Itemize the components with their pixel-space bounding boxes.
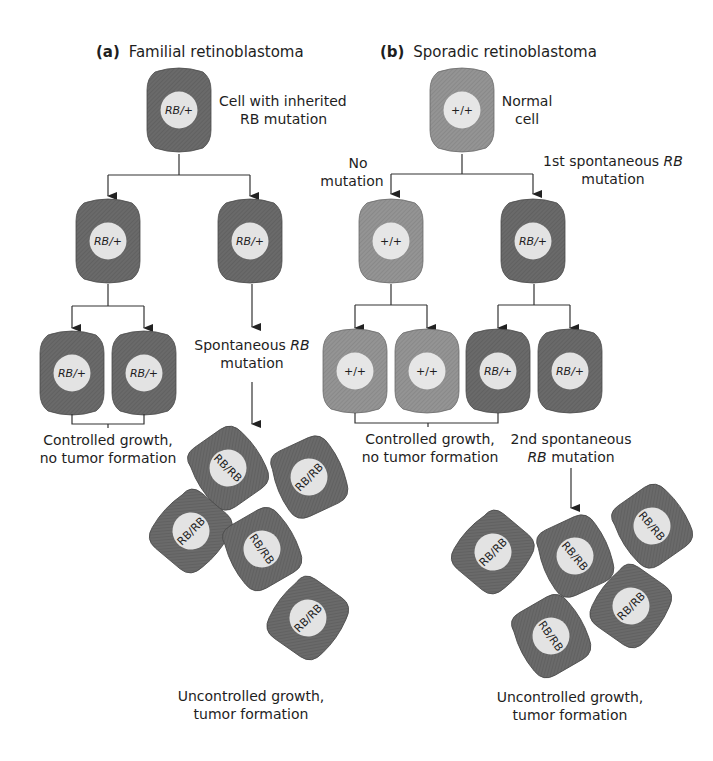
svg-text:no tumor formation: no tumor formation <box>40 450 177 466</box>
svg-text:RB/+: RB/+ <box>58 367 86 380</box>
svg-text:RB mutation: RB mutation <box>527 449 614 465</box>
svg-text:Normal: Normal <box>502 93 553 109</box>
tumor-cell: RB/RB <box>444 503 542 602</box>
svg-text:Controlled growth,: Controlled growth, <box>43 432 173 448</box>
svg-text:mutation: mutation <box>220 355 283 371</box>
bracket <box>355 413 498 427</box>
svg-text:+/+: +/+ <box>380 235 402 248</box>
daughter-cell: RB/+ <box>538 329 602 413</box>
retinoblastoma-diagram: (a) Familial retinoblastoma RB/+ Cell wi… <box>0 0 713 761</box>
panel-b: (b) Sporadic retinoblastoma +/+ Normal c… <box>320 43 700 723</box>
cell-rb-het: RB/+ <box>218 199 282 283</box>
panel-a: (a) Familial retinoblastoma RB/+ Cell wi… <box>40 43 357 722</box>
svg-text:Uncontrolled growth,: Uncontrolled growth, <box>178 688 325 704</box>
cell-normal: +/+ <box>359 199 423 283</box>
svg-text:RB/+: RB/+ <box>130 367 158 380</box>
daughter-cell: +/+ <box>395 329 459 413</box>
svg-text:RB/+: RB/+ <box>165 104 193 117</box>
svg-text:RB/+: RB/+ <box>94 235 122 248</box>
tumor-cell: RB/RB <box>504 588 599 684</box>
cell-inherited-rb: RB/+ <box>147 68 211 152</box>
svg-text:tumor formation: tumor formation <box>513 707 628 723</box>
daughter-cell: RB/+ <box>112 331 176 415</box>
svg-text:RB/+: RB/+ <box>236 235 264 248</box>
event-first-spontaneous: 1st spontaneous RB <box>543 153 683 169</box>
tumor-cell: RB/RB <box>604 477 701 575</box>
panel-b-title: (b) Sporadic retinoblastoma <box>380 43 597 61</box>
daughter-cell: RB/+ <box>40 331 104 415</box>
daughter-cell: +/+ <box>323 329 387 413</box>
daughter-cell: RB/+ <box>466 329 530 413</box>
bracket <box>72 414 144 428</box>
svg-text:Controlled growth,: Controlled growth, <box>365 431 495 447</box>
root-caption-a: Cell with inherited <box>219 93 347 109</box>
svg-text:RB/+: RB/+ <box>556 365 584 378</box>
svg-text:RB/+: RB/+ <box>484 365 512 378</box>
svg-text:cell: cell <box>515 111 539 127</box>
svg-text:RB mutation: RB mutation <box>240 111 327 127</box>
svg-text:+/+: +/+ <box>344 365 366 378</box>
svg-text:no tumor formation: no tumor formation <box>362 449 499 465</box>
cell-rb-het: RB/+ <box>76 199 140 283</box>
svg-text:+/+: +/+ <box>416 365 438 378</box>
svg-text:RB/+: RB/+ <box>519 235 547 248</box>
svg-text:tumor formation: tumor formation <box>194 706 309 722</box>
cell-rb-het: RB/+ <box>501 199 565 283</box>
svg-text:Uncontrolled growth,: Uncontrolled growth, <box>497 689 644 705</box>
event-spontaneous-rb: Spontaneous RB <box>194 337 309 353</box>
cell-normal: +/+ <box>430 68 494 152</box>
svg-text:+/+: +/+ <box>451 104 473 117</box>
svg-text:No: No <box>348 155 367 171</box>
tumor-cell: RB/RB <box>263 430 355 524</box>
svg-text:mutation: mutation <box>320 173 383 189</box>
panel-a-title: (a) Familial retinoblastoma <box>96 43 304 61</box>
event-second-spontaneous: 2nd spontaneous <box>510 431 631 447</box>
svg-text:mutation: mutation <box>581 171 644 187</box>
